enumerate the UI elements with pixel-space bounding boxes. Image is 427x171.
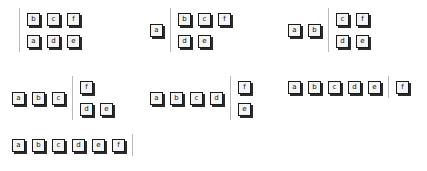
- letter-tile[interactable]: f: [218, 13, 231, 26]
- letter-tile-label: d: [179, 36, 190, 47]
- letter-tile[interactable]: f: [67, 13, 80, 26]
- letter-tile-label: c: [53, 140, 64, 151]
- sorted-region: ab: [288, 8, 321, 52]
- sort-step-5: abcdfe: [150, 76, 251, 120]
- sort-step-1: bcfade: [12, 8, 80, 52]
- sort-step-2: abcfde: [150, 8, 231, 52]
- letter-tile[interactable]: c: [190, 92, 203, 105]
- unsorted-region: fe: [238, 76, 251, 120]
- letter-tile-label: a: [13, 93, 24, 104]
- letter-tile[interactable]: b: [308, 81, 321, 94]
- letter-tile-label: c: [191, 93, 202, 104]
- sorted-row: a: [150, 19, 163, 41]
- unsorted-region: bcfade: [27, 8, 80, 52]
- unsorted-row-top: bcf: [27, 8, 80, 30]
- partition-divider: [230, 76, 231, 120]
- letter-tile[interactable]: d: [348, 81, 361, 94]
- unsorted-row-top: cf: [336, 8, 369, 30]
- partition-divider: [19, 8, 20, 52]
- unsorted-row-bottom: de: [80, 98, 113, 120]
- letter-tile[interactable]: d: [72, 139, 85, 152]
- letter-tile[interactable]: a: [288, 81, 301, 94]
- letter-tile[interactable]: c: [52, 139, 65, 152]
- letter-tile[interactable]: e: [356, 35, 369, 48]
- partition-divider: [132, 134, 133, 156]
- letter-tile[interactable]: f: [238, 81, 251, 94]
- letter-tile[interactable]: f: [112, 139, 125, 152]
- letter-tile-label: e: [369, 82, 380, 93]
- sort-step-4: abcfde: [12, 76, 113, 120]
- letter-tile-label: f: [81, 82, 92, 93]
- letter-tile[interactable]: c: [47, 13, 60, 26]
- letter-tile-label: d: [81, 104, 92, 115]
- letter-tile[interactable]: c: [198, 13, 211, 26]
- unsorted-row-bottom: de: [336, 30, 369, 52]
- unsorted-row-top: f: [80, 76, 113, 98]
- letter-tile-label: c: [53, 93, 64, 104]
- letter-tile-label: f: [113, 140, 124, 151]
- letter-tile[interactable]: e: [368, 81, 381, 94]
- letter-tile[interactable]: d: [80, 103, 93, 116]
- letter-tile[interactable]: b: [32, 139, 45, 152]
- unsorted-row-bottom: e: [238, 98, 251, 120]
- letter-tile-label: d: [211, 93, 222, 104]
- letter-tile-label: c: [48, 14, 59, 25]
- letter-tile[interactable]: d: [47, 35, 60, 48]
- letter-tile[interactable]: e: [92, 139, 105, 152]
- letter-tile-label: e: [93, 140, 104, 151]
- letter-tile-label: b: [309, 82, 320, 93]
- letter-tile[interactable]: c: [336, 13, 349, 26]
- letter-tile[interactable]: a: [27, 35, 40, 48]
- letter-tile[interactable]: c: [328, 81, 341, 94]
- unsorted-row-top: f: [396, 76, 409, 98]
- letter-tile[interactable]: a: [12, 92, 25, 105]
- letter-tile[interactable]: c: [52, 92, 65, 105]
- letter-tile-label: e: [239, 104, 250, 115]
- sorted-region: abc: [12, 76, 65, 120]
- unsorted-row-bottom: ade: [27, 30, 80, 52]
- letter-tile[interactable]: e: [67, 35, 80, 48]
- letter-tile[interactable]: d: [210, 92, 223, 105]
- letter-tile-label: d: [73, 140, 84, 151]
- letter-tile-label: e: [101, 104, 112, 115]
- letter-tile-label: f: [68, 14, 79, 25]
- letter-tile[interactable]: f: [396, 81, 409, 94]
- letter-tile-label: c: [199, 14, 210, 25]
- sorted-region: abcd: [150, 76, 223, 120]
- letter-tile-label: f: [239, 82, 250, 93]
- unsorted-row-top: bcf: [178, 8, 231, 30]
- letter-tile[interactable]: b: [178, 13, 191, 26]
- unsorted-region: bcfde: [178, 8, 231, 52]
- letter-tile[interactable]: a: [12, 139, 25, 152]
- letter-tile[interactable]: a: [288, 24, 301, 37]
- letter-tile[interactable]: e: [238, 103, 251, 116]
- sorted-region: a: [150, 8, 163, 52]
- letter-tile[interactable]: b: [32, 92, 45, 105]
- letter-tile-label: b: [33, 140, 44, 151]
- sort-step-3: abcfde: [288, 8, 369, 52]
- letter-tile-label: a: [289, 25, 300, 36]
- letter-tile-label: e: [357, 36, 368, 47]
- letter-tile[interactable]: b: [27, 13, 40, 26]
- partition-divider: [170, 8, 171, 52]
- letter-tile[interactable]: f: [356, 13, 369, 26]
- letter-tile-label: a: [289, 82, 300, 93]
- letter-tile[interactable]: d: [336, 35, 349, 48]
- partition-divider: [388, 76, 389, 98]
- unsorted-region: cfde: [336, 8, 369, 52]
- letter-tile[interactable]: f: [80, 81, 93, 94]
- letter-tile[interactable]: b: [308, 24, 321, 37]
- letter-tile[interactable]: b: [170, 92, 183, 105]
- letter-tile-label: b: [309, 25, 320, 36]
- letter-tile[interactable]: a: [150, 92, 163, 105]
- sort-step-6: abcdef: [288, 76, 409, 98]
- letter-tile[interactable]: d: [178, 35, 191, 48]
- letter-tile[interactable]: a: [150, 24, 163, 37]
- letter-tile-label: a: [151, 25, 162, 36]
- letter-tile-label: d: [48, 36, 59, 47]
- letter-tile[interactable]: e: [198, 35, 211, 48]
- sorted-row: abcde: [288, 76, 381, 98]
- sorted-region: abcde: [288, 76, 381, 98]
- partition-divider: [328, 8, 329, 52]
- letter-tile[interactable]: e: [100, 103, 113, 116]
